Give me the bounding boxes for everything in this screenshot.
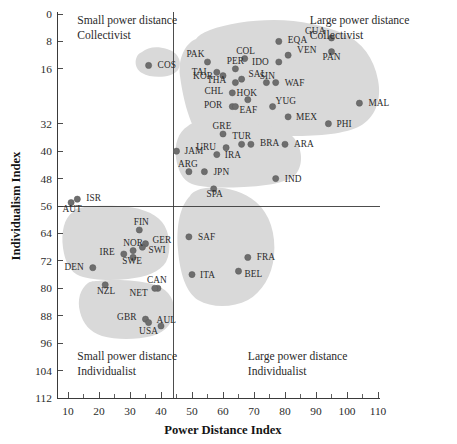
x-tick-label: 40 xyxy=(155,405,167,417)
point-label-nor: NOR xyxy=(123,238,144,248)
point-label-gre: GRE xyxy=(213,121,232,131)
point-label-jam: JAM xyxy=(185,146,204,156)
point-label-per: PER xyxy=(227,56,245,66)
point-label-pak: PAK xyxy=(186,49,204,59)
data-point-net[interactable] xyxy=(152,285,158,291)
data-point-fin[interactable] xyxy=(136,227,142,233)
y-tick-label: 96 xyxy=(41,337,53,349)
point-label-tur: TUR xyxy=(232,131,252,141)
point-label-ire: IRE xyxy=(100,247,115,257)
data-point-den[interactable] xyxy=(90,265,96,271)
data-point-per[interactable] xyxy=(232,66,238,72)
point-label-mal: MAL xyxy=(368,98,389,108)
y-tick-label: 48 xyxy=(41,173,53,185)
point-label-usa: USA xyxy=(139,326,158,336)
data-point-ind[interactable] xyxy=(273,175,279,181)
point-label-spa: SPA xyxy=(206,189,223,199)
data-point-jam[interactable] xyxy=(173,148,179,154)
y-tick-label: 16 xyxy=(41,63,53,75)
quad-bottom-left: Small power distanceIndividualist xyxy=(77,350,177,378)
point-label-yug: YUG xyxy=(276,96,297,106)
y-tick-label: 88 xyxy=(41,310,53,322)
point-label-aul: AUL xyxy=(157,315,177,325)
point-label-chl: CHL xyxy=(204,86,223,96)
data-point-sal[interactable] xyxy=(239,76,245,82)
quad-top-right-line2: Collectivist xyxy=(310,29,364,42)
quad-top-left: Small power distanceCollectivist xyxy=(77,14,177,42)
x-axis-title: Power Distance Index xyxy=(164,423,282,437)
point-label-bra: BRA xyxy=(260,138,280,148)
quad-bottom-right-line1: Large power distance xyxy=(248,350,348,363)
data-point-arg[interactable] xyxy=(186,169,192,175)
point-label-fin: FIN xyxy=(134,217,149,227)
data-point-ido[interactable] xyxy=(276,59,282,65)
y-tick-label: 112 xyxy=(35,392,52,404)
point-label-ira: IRA xyxy=(225,150,241,160)
point-label-saf: SAF xyxy=(198,232,215,242)
data-point-mex[interactable] xyxy=(285,114,291,120)
quad-bottom-left-line1: Small power distance xyxy=(77,350,177,363)
point-label-phi: PHI xyxy=(336,119,351,129)
y-tick-label: 32 xyxy=(41,118,53,130)
data-point-eqa[interactable] xyxy=(276,38,282,44)
data-point-saf[interactable] xyxy=(186,234,192,240)
x-tick-label: 20 xyxy=(93,405,105,417)
x-tick-label: 80 xyxy=(279,405,291,417)
y-tick-label: 0 xyxy=(46,8,52,20)
point-label-jpn: JPN xyxy=(213,167,229,177)
plot-canvas: COSPAKCOLEQAGUAPERIDOVENPANTAISALSINKORT… xyxy=(0,0,457,444)
quad-bottom-right-line2: Individualist xyxy=(248,365,307,378)
data-point-ven[interactable] xyxy=(285,52,291,58)
data-point-eaf[interactable] xyxy=(232,103,238,109)
quad-bottom-right: Large power distanceIndividualist xyxy=(248,350,348,378)
quad-bottom-left-line2: Individualist xyxy=(77,365,136,378)
data-point-bel[interactable] xyxy=(235,268,241,274)
data-point-tur[interactable] xyxy=(239,141,245,147)
point-label-cos: COS xyxy=(158,60,176,70)
x-tick-label: 60 xyxy=(217,405,229,417)
point-label-tha: THA xyxy=(207,75,227,85)
x-tick-label: 90 xyxy=(310,405,322,417)
data-point-cos[interactable] xyxy=(146,62,152,68)
y-tick-label: 56 xyxy=(41,200,53,212)
point-label-net: NET xyxy=(129,288,148,298)
point-label-fra: FRA xyxy=(257,252,276,262)
data-point-bra[interactable] xyxy=(248,141,254,147)
point-label-hok: HOK xyxy=(237,88,258,98)
point-label-sin: SIN xyxy=(260,71,275,81)
quad-top-left-line1: Small power distance xyxy=(77,14,177,27)
point-label-por: POR xyxy=(204,100,223,110)
point-label-ita: ITA xyxy=(200,270,215,280)
point-label-isr: ISR xyxy=(86,193,101,203)
data-point-ita[interactable] xyxy=(189,271,195,277)
point-label-ido: IDO xyxy=(252,57,269,67)
point-label-eqa: EQA xyxy=(288,35,308,45)
data-point-ira[interactable] xyxy=(214,151,220,157)
y-tick-label: 64 xyxy=(41,227,53,239)
x-tick-label: 110 xyxy=(370,405,387,417)
point-label-swe: SWE xyxy=(122,256,142,266)
y-tick-label: 72 xyxy=(41,255,53,267)
data-point-nor[interactable] xyxy=(130,247,136,253)
point-label-nzl: NZL xyxy=(97,286,116,296)
point-label-col: COL xyxy=(236,46,255,56)
data-point-ara[interactable] xyxy=(282,141,288,147)
point-label-ara: ARA xyxy=(294,139,314,149)
data-point-jpn[interactable] xyxy=(201,169,207,175)
data-point-gre[interactable] xyxy=(220,131,226,137)
data-point-aul[interactable] xyxy=(146,319,152,325)
x-tick-label: 50 xyxy=(186,405,198,417)
data-point-pak[interactable] xyxy=(204,59,210,65)
x-tick-label: 100 xyxy=(338,405,355,417)
point-label-pan: PAN xyxy=(322,52,340,62)
data-point-fra[interactable] xyxy=(245,254,251,260)
quad-top-left-line2: Collectivist xyxy=(77,29,131,42)
x-tick-label: 10 xyxy=(62,405,74,417)
data-point-mal[interactable] xyxy=(356,100,362,106)
data-point-tha[interactable] xyxy=(232,79,238,85)
point-label-den: DEN xyxy=(64,262,84,272)
data-point-phi[interactable] xyxy=(325,121,331,127)
data-point-chl[interactable] xyxy=(229,90,235,96)
data-point-isr[interactable] xyxy=(74,196,80,202)
x-tick-label: 30 xyxy=(124,405,136,417)
